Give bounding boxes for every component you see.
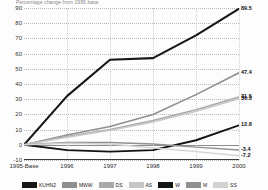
legend-item[interactable]: KUHN2 [22,182,56,188]
legend-item[interactable]: SS [213,182,237,188]
legend-swatch-icon [213,182,228,188]
x-axis-tick-label: 1996 [60,163,73,169]
series-end-label: 12.8 [241,123,252,129]
legend-label: W [175,183,180,188]
x-axis-tick-label: 1995-Base [9,163,38,169]
legend-swatch-icon [186,182,201,188]
x-axis-tick-label: 1997 [103,163,116,169]
legend-item[interactable]: AS [129,182,153,188]
y-axis-tick-label: 50 [15,66,22,72]
series-end-label: 89.5 [241,6,252,12]
y-axis-tick-label: 40 [15,81,22,87]
x-gridline [239,8,240,160]
legend-item[interactable]: MWW [62,182,93,188]
legend-label: AS [146,183,153,188]
legend-item[interactable]: W [158,182,180,188]
series-lines [24,8,239,160]
legend-item[interactable]: M [186,182,207,188]
legend-item[interactable]: DS [99,182,123,188]
y-axis-tick-label: 20 [15,111,22,117]
legend-label: MWW [79,183,93,188]
legend-swatch-icon [99,182,114,188]
legend-label: DS [116,183,123,188]
series-end-label: 30.3 [241,96,252,102]
y-axis-tick-label: 60 [15,51,22,57]
x-axis-tick-label: 1999 [189,163,202,169]
x-axis-tick-label: 2000 [232,163,245,169]
y-axis-tick-label: 30 [15,96,22,102]
legend-label: M [203,183,207,188]
plot-area: -1001020304050607080901995-Base199619971… [24,8,239,160]
y-axis-tick-label: 70 [15,35,22,41]
chart-legend: KUHN2MWWDSASWMSS [22,182,262,188]
legend-swatch-icon [22,182,37,188]
chart-title: Percentage change from 1995 base [16,0,99,5]
series-end-label: -7.2 [241,153,250,159]
legend-label: SS [230,183,237,188]
x-axis-tick-label: 1998 [146,163,159,169]
legend-swatch-icon [158,182,173,188]
legend-swatch-icon [129,182,144,188]
line-chart: Percentage change from 1995 base -100102… [0,0,268,190]
y-axis-tick-label: 90 [15,5,22,11]
y-axis-tick-label: 10 [15,127,22,133]
series-end-label: 47.4 [241,70,252,76]
y-axis-tick-label: 80 [15,20,22,26]
y-axis-tick-label: 0 [19,142,22,148]
y-gridline [24,160,239,161]
legend-swatch-icon [62,182,77,188]
legend-label: KUHN2 [39,183,56,188]
